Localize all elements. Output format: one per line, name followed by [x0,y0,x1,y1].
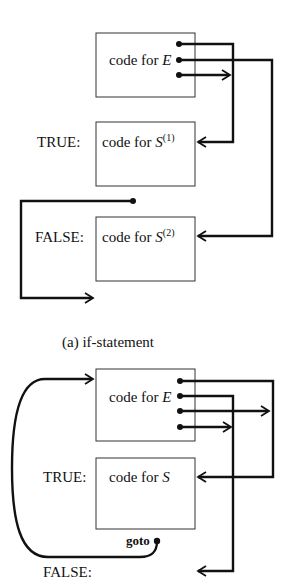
code-block-e-label: code for E [109,389,171,405]
goto-end-arrow [21,201,133,298]
code-block-s-label: code for S [109,469,170,485]
true-label: TRUE: [43,469,86,485]
diagram-caption: (a) if-statement [62,334,155,351]
code-block-s2-label: code for S(2) [102,227,174,245]
control-flow-diagram: code for E TRUE: code for S(1) FALSE: co… [0,0,288,579]
goto-label: goto [126,533,150,548]
code-block-s1-label: code for S(1) [102,132,174,150]
code-block-s2 [96,217,195,281]
code-block-s1 [96,122,195,186]
while-loop-diagram: code for E TRUE: code for S goto FALSE: [12,369,273,579]
code-block-e-label: code for E [109,52,171,68]
false-jump-arrow [179,60,272,236]
false-label: FALSE: [35,229,84,245]
loop-back-arrow [12,379,157,557]
true-label: TRUE: [37,134,80,150]
false-label: FALSE: [43,564,92,579]
jump-source-dot [130,198,136,204]
if-statement-diagram: code for E TRUE: code for S(1) FALSE: co… [21,33,272,351]
true-jump-arrow [179,44,233,142]
